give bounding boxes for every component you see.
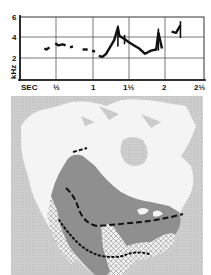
y-tick-4: 4 [12, 33, 17, 42]
y-axis-label: kHz [9, 65, 18, 79]
sonogram-chart: 6 4 2 kHz SEC ½ 1 1½ 2 2½ [0, 0, 211, 92]
x-tick-1: 1 [91, 83, 96, 92]
x-tick-half: ½ [53, 83, 60, 92]
x-tick-2-half: 2½ [194, 83, 205, 92]
y-tick-6: 6 [12, 13, 17, 22]
x-axis-label: SEC [21, 83, 38, 92]
x-tick-1-half: 1½ [123, 83, 134, 92]
y-tick-2: 2 [12, 54, 17, 63]
range-map [11, 96, 203, 275]
x-tick-2: 2 [162, 83, 167, 92]
